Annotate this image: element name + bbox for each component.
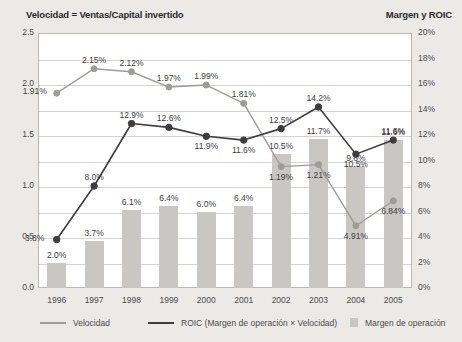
roic-marker: [278, 125, 284, 131]
y-axis-tick-left: 0.0: [0, 282, 34, 292]
velocidad-marker: [91, 66, 97, 72]
velocidad-marker: [166, 84, 172, 90]
roic-marker: [241, 137, 247, 143]
roic-marker: [54, 236, 60, 242]
legend-item-roic: ROIC (Margen de operación × Velocidad): [148, 318, 337, 328]
velocidad-marker: [353, 223, 359, 229]
y-axis-tick-left: 2.5: [0, 27, 34, 37]
legend-swatch-margen: [350, 318, 358, 327]
chart-legend: Velocidad ROIC (Margen de operación × Ve…: [0, 318, 462, 334]
velocidad-line: [57, 69, 394, 226]
x-axis-tick: 2000: [188, 295, 225, 305]
roic-marker: [166, 124, 172, 130]
velocidad-marker: [129, 69, 135, 75]
x-axis-tick: 1999: [150, 295, 187, 305]
y-axis-tick-right: 18%: [418, 53, 462, 63]
y-axis-tick-right: 12%: [418, 129, 462, 139]
series-layer: [38, 33, 412, 288]
roic-marker: [315, 104, 321, 110]
roic-marker: [353, 151, 359, 157]
x-axis-tick: 2005: [375, 295, 412, 305]
y-axis-tick-right: 6%: [418, 206, 462, 216]
roic-line: [57, 107, 394, 240]
velocidad-marker: [54, 90, 60, 96]
roic-marker: [203, 133, 209, 139]
legend-label-roic: ROIC (Margen de operación × Velocidad): [181, 318, 337, 328]
velocidad-marker: [203, 82, 209, 88]
x-axis-tick: 2004: [337, 295, 374, 305]
chart-title-right: Margen y ROIC: [386, 9, 452, 20]
legend-line-velocidad: [40, 322, 66, 324]
roic-marker: [128, 120, 134, 126]
velocidad-marker: [278, 164, 284, 170]
x-axis-tick: 2002: [262, 295, 299, 305]
x-axis-tick: 1997: [75, 295, 112, 305]
y-axis-tick-right: 4%: [418, 231, 462, 241]
y-axis-tick-right: 14%: [418, 104, 462, 114]
legend-label-velocidad: Velocidad: [73, 318, 110, 328]
chart-title-left: Velocidad = Ventas/Capital invertido: [26, 9, 183, 20]
y-axis-tick-right: 20%: [418, 27, 462, 37]
legend-line-roic: [148, 322, 174, 324]
y-axis-tick-right: 8%: [418, 180, 462, 190]
y-axis-tick-left: 1.0: [0, 180, 34, 190]
roic-marker: [91, 183, 97, 189]
legend-item-margen: Margen de operación: [350, 318, 445, 328]
y-axis-tick-right: 2%: [418, 257, 462, 267]
legend-item-velocidad: Velocidad: [40, 318, 110, 328]
legend-label-margen: Margen de operación: [365, 318, 445, 328]
y-axis-tick-right: 16%: [418, 78, 462, 88]
y-axis-tick-left: 1.5: [0, 129, 34, 139]
roic-marker: [390, 137, 396, 143]
velocidad-marker: [316, 162, 322, 168]
y-axis-tick-right: 10%: [418, 155, 462, 165]
velocidad-marker: [241, 100, 247, 106]
x-axis-tick: 2001: [225, 295, 262, 305]
y-axis-tick-right: 0%: [418, 282, 462, 292]
velocidad-marker: [390, 198, 396, 204]
x-axis-tick: 2003: [300, 295, 337, 305]
x-axis-tick: 1996: [38, 295, 75, 305]
x-axis-tick: 1998: [113, 295, 150, 305]
